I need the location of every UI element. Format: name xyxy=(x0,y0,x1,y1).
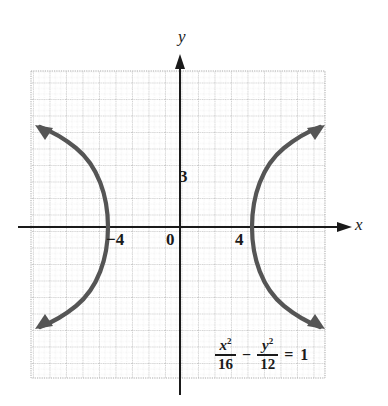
equation-annotation: x2 16 − y2 12 = 1 xyxy=(213,337,308,372)
y-term-denominator: 12 xyxy=(257,356,278,372)
x-axis-label: x xyxy=(355,216,363,233)
x-exponent: 2 xyxy=(227,336,232,346)
grid-area xyxy=(31,71,325,378)
y-tick-label-three: 3 xyxy=(179,168,188,185)
x-variable: x xyxy=(220,337,228,353)
x-term-denominator: 16 xyxy=(215,356,236,372)
y-variable: y xyxy=(262,337,269,353)
y-exponent: 2 xyxy=(269,336,274,346)
x-term-fraction: x2 16 xyxy=(215,337,236,372)
minus-operator: − xyxy=(242,347,251,363)
y-axis-arrowhead xyxy=(175,54,185,69)
y-axis-label: y xyxy=(178,28,186,45)
x-tick-label-negative-four: −4 xyxy=(106,231,124,248)
y-term-numerator: y2 xyxy=(259,337,276,354)
x-tick-label-positive-four: 4 xyxy=(235,231,244,248)
origin-label: 0 xyxy=(166,231,175,248)
x-axis-arrowhead xyxy=(337,222,352,232)
hyperbola-figure: y x −4 0 4 3 x2 16 − y2 12 = 1 xyxy=(0,0,388,406)
x-term-numerator: x2 xyxy=(217,337,235,354)
y-term-fraction: y2 12 xyxy=(257,337,278,372)
plot-canvas xyxy=(0,0,388,406)
grid-fill xyxy=(31,71,325,378)
equals-operator: = xyxy=(284,347,293,363)
equation-right-hand-side: 1 xyxy=(300,347,308,363)
